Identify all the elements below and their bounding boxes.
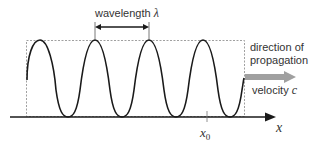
velocity-label: velocity c	[252, 83, 298, 97]
velocity-arrow-head	[284, 71, 296, 83]
x0-label: x0	[199, 125, 211, 142]
sine-wave	[27, 40, 244, 117]
wavelength-label: wavelength λ	[94, 6, 159, 20]
wavelength-arrowhead-left	[95, 24, 101, 30]
wavelength-arrowhead-right	[143, 24, 149, 30]
direction-label-line1: direction of	[250, 41, 305, 53]
x-axis-arrowhead	[265, 113, 276, 122]
velocity-arrow-shaft	[245, 74, 285, 80]
direction-label-line2: propagation	[250, 54, 308, 66]
wave-diagram: wavelength λ direction of propagation ve…	[0, 0, 312, 146]
axis-x-label: x	[275, 120, 283, 135]
